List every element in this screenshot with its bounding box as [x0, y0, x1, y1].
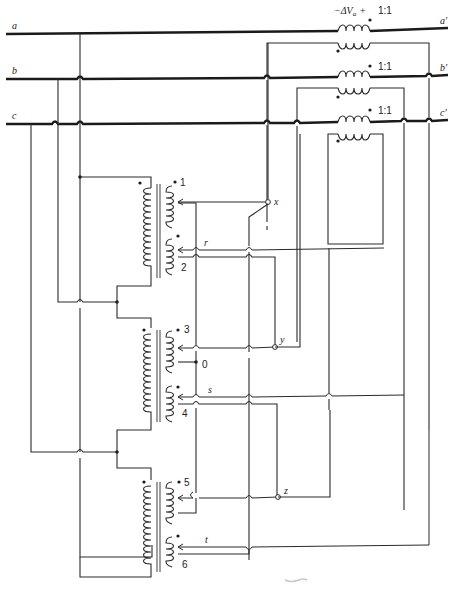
series-coil-b [338, 71, 370, 77]
series-label-a: −ΔVa+ [334, 5, 366, 18]
bus-b: b b' 1:1 [6, 61, 448, 510]
label-s: s [208, 384, 212, 395]
bus-c-left-label: c [12, 110, 17, 121]
label-t: t [205, 534, 208, 545]
winding-label-5: 5 [184, 477, 190, 488]
tap-z [178, 492, 278, 501]
winding-label-6: 6 [182, 559, 188, 570]
bus-b-left-label: b [12, 65, 17, 76]
bus-a-right-label: a' [440, 15, 448, 26]
winding-label-1: 1 [180, 177, 186, 188]
ratio-label-a: 1:1 [378, 5, 392, 16]
series-secondary-coil-a [338, 43, 370, 49]
winding-label-3: 3 [184, 324, 190, 335]
exciting-transformer-1: 1 2 [80, 177, 187, 278]
winding-label-2: 2 [181, 262, 187, 273]
ratio-label-b: 1:1 [378, 61, 392, 72]
label-x: x [273, 196, 279, 207]
series-secondary-coil-c [338, 134, 370, 140]
label-r: r [204, 237, 208, 248]
winding-label-4: 4 [182, 408, 188, 419]
tap-t [178, 430, 429, 550]
ratio-label-c: 1:1 [378, 105, 392, 116]
label-z: z [283, 485, 288, 496]
bus-c-right-label: c' [440, 107, 447, 118]
bus-c: c c' 1:1 [6, 105, 448, 244]
tap-y [178, 345, 275, 351]
circuit-diagram: −ΔVa+ 1:1 a a' b b' 1:1 c c' 1: [0, 0, 456, 592]
tap-r [178, 247, 384, 253]
label-y: y [279, 334, 285, 345]
series-coil-c [338, 116, 370, 122]
series-secondary-coil-b [338, 88, 370, 94]
bus-a-left-label: a [12, 20, 17, 31]
series-coil-a [338, 25, 370, 31]
exciting-transformer-2: 3 4 [142, 324, 190, 422]
feeder-c [31, 124, 117, 452]
bus-b-right-label: b' [440, 62, 448, 73]
node-x [266, 200, 271, 205]
exciting-transformer-3: 5 6 [142, 477, 190, 572]
neutral-label: 0 [202, 359, 208, 370]
feeder-b [58, 79, 117, 302]
